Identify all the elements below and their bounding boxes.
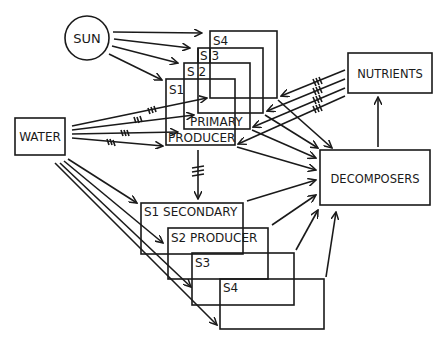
primary-producer-node: S4 S 3 S 2 S1 PRIMARY PRODUCER bbox=[166, 31, 277, 145]
sun-node: SUN bbox=[65, 16, 109, 60]
primary-stage-s1-label: S1 bbox=[169, 83, 184, 97]
hatch-marks-nutrients bbox=[313, 77, 322, 113]
ecosystem-diagram: SUN S4 S 3 S 2 S1 PRIMARY PRODUCER WATER… bbox=[0, 0, 445, 341]
decomposers-node: DECOMPOSERS bbox=[320, 150, 430, 205]
primary-stage-s4-label: S4 bbox=[213, 34, 228, 48]
secondary-stage-s4-label: S4 bbox=[223, 281, 238, 295]
secondary-stage-s3-label: S3 bbox=[195, 256, 210, 270]
primary-stage-s2-label: S 2 bbox=[187, 65, 206, 79]
water-label: WATER bbox=[19, 130, 61, 144]
primary-to-secondary-arrow bbox=[192, 150, 204, 199]
secondary-stage-s2-label: S2 PRODUCER bbox=[171, 231, 257, 245]
nutrients-node: NUTRIENTS bbox=[348, 53, 432, 93]
primary-label: PRIMARY bbox=[190, 115, 243, 129]
nutrients-to-primary-arrows bbox=[238, 70, 345, 144]
primary-stage-s3-label: S 3 bbox=[200, 49, 219, 63]
nutrients-label: NUTRIENTS bbox=[357, 67, 423, 81]
hatch-marks-water bbox=[107, 106, 156, 146]
decomposers-label: DECOMPOSERS bbox=[331, 172, 420, 186]
water-node: WATER bbox=[15, 118, 65, 155]
producer-label: PRODUCER bbox=[168, 131, 235, 145]
secondary-stage-s1-label: S1 SECONDARY bbox=[144, 205, 238, 219]
sun-label: SUN bbox=[73, 31, 101, 46]
